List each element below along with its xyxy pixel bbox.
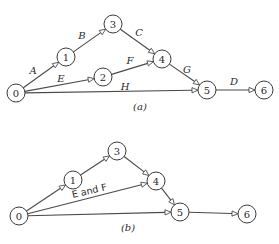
- node-6: 6: [238, 205, 256, 223]
- arrowhead-icon: [103, 156, 109, 161]
- arrowhead-icon: [232, 211, 238, 216]
- diagram-a: ABCEFGHD0123456(a): [7, 15, 273, 112]
- edge-0-5: [28, 212, 165, 215]
- node-0: 0: [7, 84, 25, 102]
- edge-label: G: [183, 64, 191, 75]
- edge-4-5: [162, 188, 171, 200]
- arrowhead-icon: [169, 199, 175, 205]
- edge-0-1: [26, 188, 60, 211]
- node-1: 1: [64, 171, 82, 189]
- node-5: 5: [171, 203, 189, 221]
- arrowhead-icon: [249, 87, 255, 92]
- arrowhead-icon: [148, 48, 154, 54]
- node-label: 0: [16, 211, 22, 222]
- arrowhead-icon: [165, 210, 171, 215]
- node-label: 3: [110, 19, 116, 30]
- edge-label: D: [229, 76, 238, 87]
- diagram-caption: (b): [121, 222, 135, 233]
- node-label: 0: [13, 88, 19, 99]
- arrowhead-icon: [141, 182, 147, 187]
- node-4: 4: [147, 172, 165, 190]
- edge-label: C: [135, 27, 143, 38]
- arrowhead-icon: [143, 170, 149, 176]
- node-label: 5: [204, 85, 210, 96]
- edge-0-5: [25, 90, 192, 93]
- node-label: 2: [100, 72, 106, 83]
- node-label: 3: [114, 146, 120, 157]
- arrowhead-icon: [147, 61, 153, 66]
- node-3: 3: [108, 142, 126, 160]
- node-1: 1: [57, 48, 75, 66]
- edge-0-1: [23, 66, 54, 88]
- node-label: 6: [244, 209, 250, 220]
- node-0: 0: [10, 207, 28, 225]
- arrowhead-icon: [52, 62, 58, 68]
- node-label: 1: [70, 175, 76, 186]
- network-diagram-canvas: ABCEFGHD0123456(a) E and F013456(b): [0, 0, 279, 244]
- diagram-caption: (a): [133, 101, 147, 112]
- arrowhead-icon: [99, 29, 105, 35]
- edge-1-3: [81, 159, 105, 175]
- node-3: 3: [104, 15, 122, 33]
- edge-label: B: [77, 30, 85, 41]
- node-5: 5: [198, 81, 216, 99]
- arrowhead-icon: [192, 88, 198, 93]
- edge-label: H: [120, 81, 130, 92]
- edge-3-4: [124, 156, 144, 171]
- node-label: 1: [63, 52, 69, 63]
- diagram-b: E and F013456(b): [10, 142, 256, 233]
- node-label: 4: [159, 54, 165, 65]
- edge-5-6: [189, 212, 232, 213]
- node-4: 4: [153, 50, 171, 68]
- arrowhead-icon: [59, 185, 65, 190]
- node-6: 6: [255, 81, 273, 99]
- node-label: 4: [153, 176, 159, 187]
- node-2: 2: [94, 68, 112, 86]
- arrowhead-icon: [193, 79, 199, 85]
- edge-label: E: [56, 73, 65, 84]
- arrowhead-icon: [88, 77, 94, 82]
- node-label: 5: [177, 207, 183, 218]
- edge-label: F: [126, 55, 135, 66]
- edge-label: A: [28, 65, 36, 76]
- node-label: 6: [261, 85, 267, 96]
